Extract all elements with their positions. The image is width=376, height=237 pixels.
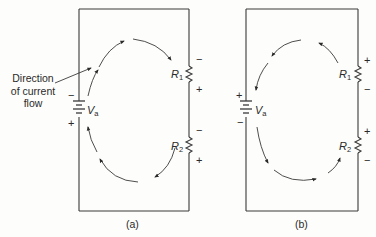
resistor-r1-icon	[186, 66, 192, 82]
callout-line-3: flow	[6, 97, 60, 110]
circuit-diagram	[0, 0, 376, 237]
resistor-a-r1-label: R1	[171, 69, 183, 82]
source-a-bottom-sign: +	[68, 118, 74, 129]
callout-line-2: of current	[6, 85, 60, 98]
resistor-b-r2-bottom-sign: −	[364, 155, 370, 166]
resistor-b-r2-label: R2	[339, 141, 351, 154]
resistor-b-r1-label: R1	[339, 69, 351, 82]
resistor-a-r2-bottom-sign: +	[196, 155, 202, 166]
callout-line-1: Direction	[6, 72, 60, 85]
resistor-b-r2-top-sign: +	[364, 126, 370, 137]
source-b-label: Va	[255, 105, 267, 118]
panel-a-caption: (a)	[126, 219, 139, 230]
battery-icon	[240, 101, 252, 113]
circuit-figure: Direction of current flow − + Va R1 − + …	[0, 0, 376, 237]
resistor-a-r2-top-sign: −	[196, 125, 202, 136]
callout-label: Direction of current flow	[6, 72, 60, 110]
panel-b-current-arrows	[256, 40, 340, 180]
battery-icon	[73, 101, 85, 113]
resistor-r2-icon	[355, 137, 361, 153]
resistor-a-r1-bottom-sign: +	[196, 84, 202, 95]
source-a-label: Va	[87, 105, 99, 118]
resistor-r1-icon	[355, 66, 361, 82]
resistor-r2-icon	[186, 137, 192, 153]
panel-a-current-arrows	[88, 39, 175, 182]
source-b-top-sign: +	[236, 90, 242, 101]
panel-b-caption: (b)	[295, 219, 308, 230]
resistor-b-r1-top-sign: +	[364, 55, 370, 66]
source-a-top-sign: −	[68, 90, 74, 101]
source-b-bottom-sign: −	[237, 117, 243, 128]
resistor-b-r1-bottom-sign: −	[364, 84, 370, 95]
resistor-a-r2-label: R2	[171, 141, 183, 154]
callout-leader-line	[55, 68, 91, 83]
resistor-a-r1-top-sign: −	[196, 54, 202, 65]
